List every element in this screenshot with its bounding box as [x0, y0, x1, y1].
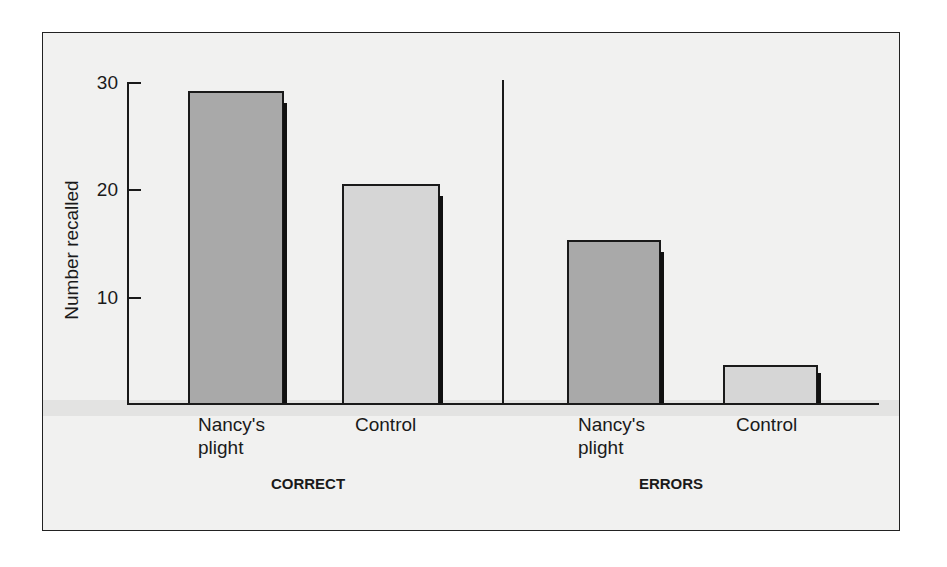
x-label-nancys-plight-errors: Nancy's plight — [578, 413, 645, 459]
chart-frame — [42, 32, 900, 531]
bar-shadow — [439, 196, 443, 404]
y-tick-label-10: 10 — [78, 288, 118, 308]
group-label-errors: ERRORS — [591, 475, 751, 492]
y-tick-label-30: 30 — [78, 73, 118, 93]
y-tick-20 — [127, 189, 141, 191]
y-axis — [127, 83, 129, 404]
x-axis — [127, 403, 879, 405]
bar-shadow — [817, 373, 821, 404]
label-line: Nancy's — [578, 413, 645, 436]
bar-errors-nancys-plight — [567, 240, 661, 404]
x-label-control-errors: Control — [736, 413, 797, 436]
x-label-nancys-plight-correct: Nancy's plight — [198, 413, 265, 459]
label-line: plight — [198, 436, 265, 459]
y-tick-30 — [127, 82, 141, 84]
bar-shadow — [283, 103, 287, 404]
bar-errors-control — [723, 365, 818, 404]
group-divider — [502, 80, 504, 404]
bar-correct-nancys-plight — [188, 91, 284, 404]
label-line: Nancy's — [198, 413, 265, 436]
group-label-correct: CORRECT — [228, 475, 388, 492]
bar-shadow — [660, 252, 664, 404]
label-line: plight — [578, 436, 645, 459]
bar-correct-control — [342, 184, 440, 404]
y-tick-10 — [127, 297, 141, 299]
y-tick-label-20: 20 — [78, 180, 118, 200]
x-label-control-correct: Control — [355, 413, 416, 436]
